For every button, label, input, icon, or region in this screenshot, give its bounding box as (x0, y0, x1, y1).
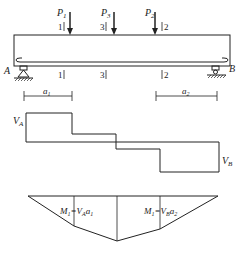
svg-text:VB: VB (222, 155, 233, 168)
rebar-hook-left (16, 58, 22, 62)
svg-text:A: A (3, 65, 11, 76)
moment-diagram: M1=VAa1 M1=VBa2 (28, 196, 218, 241)
svg-text:a1: a1 (43, 86, 51, 97)
svg-text:P1: P1 (56, 7, 67, 20)
svg-text:P2: P2 (144, 7, 155, 20)
moment-label-right: M1=VBa2 (143, 206, 177, 217)
svg-text:P3: P3 (100, 7, 111, 20)
svg-text:2: 2 (164, 22, 169, 32)
svg-text:VA: VA (13, 115, 24, 128)
load-p2: P2 2 (144, 7, 169, 35)
svg-text:3: 3 (100, 22, 105, 32)
beam (14, 35, 230, 66)
rebar (20, 58, 228, 62)
support-a: A (3, 65, 33, 81)
dimension-a2: a2 (156, 86, 217, 101)
svg-text:a2: a2 (182, 86, 190, 97)
dimension-a1: a1 (24, 86, 72, 101)
moment-label-left: M1=VAa1 (59, 206, 93, 217)
section-3-label: 3 (100, 70, 105, 80)
load-p1: P1 1 (56, 7, 73, 35)
svg-text:B: B (229, 63, 235, 74)
section-2-label: 2 (164, 70, 169, 80)
support-b: B (207, 63, 235, 78)
section-1-label: 1 (58, 70, 63, 80)
load-p3: P3 3 (100, 7, 117, 35)
svg-text:1: 1 (58, 22, 63, 32)
shear-diagram: VA VB (13, 113, 233, 172)
beam-diagram: P1 1 P3 3 P2 2 A B 1 3 2 (0, 0, 237, 253)
